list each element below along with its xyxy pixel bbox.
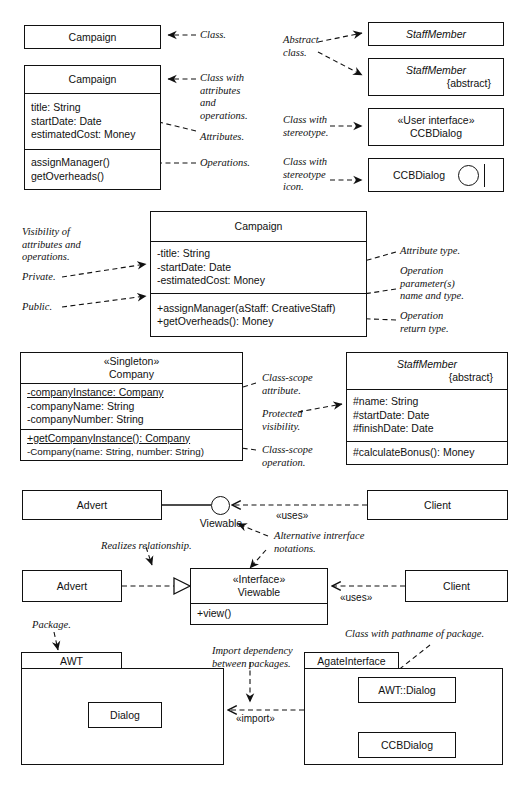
annotation-visibility: Visibility of attributes and operations. bbox=[22, 226, 81, 264]
annotation-class-with-pathname: Class with pathname of package. bbox=[345, 628, 484, 641]
class-box-campaign-full[interactable]: Campaign title: String startDate: Date e… bbox=[24, 65, 161, 190]
uml-notation-figure: Campaign Campaign title: String startDat… bbox=[0, 0, 524, 792]
operation-row: +assignManager(aStaff: CreativeStaff) bbox=[157, 302, 360, 316]
class-name: Campaign bbox=[69, 31, 117, 44]
annotation-operation-parameters: Operation parameter(s) name and type. bbox=[400, 265, 464, 303]
class-name: StaffMember bbox=[397, 358, 457, 371]
package-name: AgateInterface bbox=[317, 655, 385, 668]
class-name: StaffMember bbox=[406, 28, 466, 41]
annotation-class-with-stereotype-icon: Class with stereotype icon. bbox=[283, 156, 327, 194]
operations-compartment: #calculateBonus(): Money bbox=[347, 441, 507, 464]
annotation-protected-visibility: Protected visibility. bbox=[262, 408, 302, 433]
class-name: CCBDialog bbox=[410, 127, 462, 140]
annotation-class-with-stereotype: Class with stereotype. bbox=[283, 114, 328, 139]
class-name: CCBDialog bbox=[393, 169, 445, 182]
class-name-compartment: Client bbox=[368, 491, 507, 519]
class-name-compartment: StaffMember {abstract} bbox=[369, 59, 503, 95]
class-name-compartment: StaffMember bbox=[369, 23, 503, 45]
class-name-compartment: StaffMember {abstract} bbox=[347, 353, 507, 389]
annotation-class: Class. bbox=[200, 29, 226, 42]
attribute-row: startDate: Date bbox=[31, 115, 154, 129]
class-name: Advert bbox=[57, 580, 87, 593]
operations-compartment: assignManager() getOverheads() bbox=[25, 149, 160, 189]
annotation-import-dependency: Import dependency between packages. bbox=[212, 645, 293, 670]
stereotype-label: «Interface» bbox=[233, 573, 286, 586]
annotation-realizes-relationship: Realizes relationship. bbox=[101, 540, 192, 553]
attribute-row: title: String bbox=[31, 101, 154, 115]
operation-row: assignManager() bbox=[31, 156, 154, 170]
annotation-class-scope-operation: Class-scope operation. bbox=[262, 444, 313, 469]
annotation-private: Private. bbox=[22, 271, 56, 284]
class-box-ccbdialog-package[interactable]: CCBDialog bbox=[358, 732, 456, 758]
class-box-campaign-simple[interactable]: Campaign bbox=[24, 25, 161, 49]
class-name: AWT::Dialog bbox=[378, 684, 435, 697]
class-box-advert-top[interactable]: Advert bbox=[22, 490, 162, 520]
abstract-tag: {abstract} bbox=[449, 371, 501, 384]
lollipop-interface-label: Viewable bbox=[193, 517, 249, 529]
class-box-staffmember-abstract-italic[interactable]: StaffMember bbox=[368, 22, 504, 46]
class-name-compartment: Advert bbox=[23, 571, 121, 601]
class-name: Client bbox=[424, 499, 451, 512]
abstract-tag: {abstract} bbox=[447, 77, 497, 90]
interface-lollipop-bar-icon bbox=[484, 164, 485, 187]
annotation-abstract-class: Abstract class. bbox=[283, 34, 319, 59]
class-box-awt-dialog[interactable]: AWT::Dialog bbox=[358, 677, 456, 703]
attribute-row: -title: String bbox=[157, 247, 360, 261]
class-name: Campaign bbox=[69, 73, 117, 86]
stereotype-label: «Singleton» bbox=[104, 355, 159, 368]
class-box-ccbdialog-stereotyped[interactable]: «User interface» CCBDialog bbox=[368, 108, 504, 146]
stereotype-label: «User interface» bbox=[397, 114, 474, 127]
class-box-client-bottom[interactable]: Client bbox=[405, 570, 508, 602]
operations-compartment: +getCompanyInstance(): Company -Company(… bbox=[21, 429, 242, 461]
attribute-row: estimatedCost: Money bbox=[31, 128, 154, 142]
class-name: Dialog bbox=[110, 709, 140, 722]
annotation-class-with-attrs-ops: Class with attributes and operations. bbox=[200, 72, 248, 122]
attribute-row: -companyNumber: String bbox=[27, 413, 236, 427]
attribute-row: #finishDate: Date bbox=[353, 422, 501, 436]
class-box-campaign-visibility[interactable]: Campaign -title: String -startDate: Date… bbox=[150, 211, 367, 337]
annotation-alternative-interface-notations: Alternative intrerface notations. bbox=[274, 530, 364, 555]
package-name: AWT bbox=[60, 655, 83, 668]
attributes-compartment: title: String startDate: Date estimatedC… bbox=[25, 93, 160, 149]
class-box-client-top[interactable]: Client bbox=[367, 490, 508, 520]
annotation-operation-return-type: Operation return type. bbox=[400, 310, 449, 335]
package-tab-awt[interactable]: AWT bbox=[21, 652, 122, 669]
attribute-row: -companyName: String bbox=[27, 400, 236, 414]
class-name-compartment: CCBDialog bbox=[359, 733, 455, 757]
class-name-compartment: Campaign bbox=[25, 26, 160, 48]
package-tab-agateinterface[interactable]: AgateInterface bbox=[304, 652, 399, 669]
class-name-compartment: AWT::Dialog bbox=[359, 678, 455, 702]
uses-stereotype-label-bottom: «uses» bbox=[340, 592, 372, 603]
attribute-row: #name: String bbox=[353, 395, 501, 409]
operations-compartment: +view() bbox=[191, 603, 327, 624]
class-name-compartment: Dialog bbox=[89, 703, 161, 727]
annotation-attribute-type: Attribute type. bbox=[400, 245, 460, 258]
class-box-dialog[interactable]: Dialog bbox=[88, 702, 162, 728]
class-name: Campaign bbox=[235, 220, 283, 233]
annotation-attributes: Attributes. bbox=[200, 131, 244, 144]
attribute-row: -startDate: Date bbox=[157, 261, 360, 275]
operation-row: getOverheads() bbox=[31, 170, 154, 184]
attributes-compartment: #name: String #startDate: Date #finishDa… bbox=[347, 389, 507, 441]
class-name: Client bbox=[443, 580, 470, 593]
annotation-package: Package. bbox=[32, 619, 71, 632]
class-name: Viewable bbox=[238, 586, 280, 599]
annotation-operations: Operations. bbox=[200, 157, 250, 170]
class-name-compartment: CCBDialog bbox=[369, 159, 503, 191]
class-box-staffmember-detailed[interactable]: StaffMember {abstract} #name: String #st… bbox=[346, 352, 508, 465]
operation-row-class-scope: +getCompanyInstance(): Company bbox=[27, 432, 236, 446]
uses-stereotype-label-top: «uses» bbox=[276, 510, 308, 521]
import-stereotype-label: «import» bbox=[236, 713, 275, 724]
attribute-row-class-scope: -companyInstance: Company bbox=[27, 386, 236, 400]
class-box-staffmember-abstract-tagged[interactable]: StaffMember {abstract} bbox=[368, 58, 504, 96]
class-box-company-singleton[interactable]: «Singleton» Company -companyInstance: Co… bbox=[20, 352, 243, 461]
provided-interface-lollipop-icon bbox=[211, 496, 230, 515]
class-box-advert-bottom[interactable]: Advert bbox=[22, 570, 122, 602]
operation-row: +view() bbox=[197, 607, 321, 621]
class-name-compartment: «Interface» Viewable bbox=[191, 569, 327, 603]
class-name: StaffMember bbox=[406, 64, 466, 77]
attribute-row: -estimatedCost: Money bbox=[157, 274, 360, 288]
interface-lollipop-icon bbox=[458, 165, 479, 186]
operations-compartment: +assignManager(aStaff: CreativeStaff) +g… bbox=[151, 293, 366, 336]
class-box-viewable-interface[interactable]: «Interface» Viewable +view() bbox=[190, 568, 328, 625]
